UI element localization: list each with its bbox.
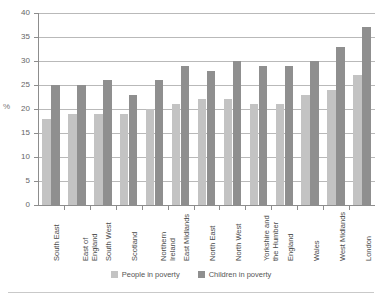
x-axis-tick bbox=[349, 206, 350, 210]
x-axis-category-label: East ofEngland bbox=[82, 233, 99, 261]
y-axis-tick-label: 15 bbox=[4, 129, 30, 137]
bar-1-3 bbox=[129, 95, 138, 205]
y-axis-tick-label: 20 bbox=[4, 105, 30, 113]
bar-0-5 bbox=[172, 104, 181, 205]
legend-swatch-icon bbox=[111, 271, 118, 278]
bar-1-7 bbox=[233, 61, 242, 205]
legend-label: Children in poverty bbox=[209, 270, 272, 279]
bar-0-8 bbox=[250, 104, 259, 205]
x-axis-category-label: South East bbox=[53, 224, 62, 261]
bar-0-4 bbox=[146, 109, 155, 205]
x-axis-category-label: Scotland bbox=[131, 232, 140, 261]
bar-1-4 bbox=[155, 80, 164, 205]
legend-item-1[interactable]: Children in poverty bbox=[198, 270, 272, 279]
x-axis-category-label: South West bbox=[105, 222, 114, 261]
x-axis-category-label: NorthernIreland bbox=[160, 232, 177, 261]
bar-0-12 bbox=[353, 75, 362, 205]
x-axis-category-label: East Midlands bbox=[183, 214, 192, 261]
y-axis-tick-label: 10 bbox=[4, 153, 30, 161]
x-axis-category-label: England bbox=[287, 233, 296, 261]
y-axis-tick-label: 0 bbox=[4, 201, 30, 209]
y-axis-tick bbox=[34, 13, 38, 14]
chart-legend: People in povertyChildren in poverty bbox=[0, 270, 382, 279]
x-axis-tick bbox=[323, 206, 324, 210]
y-axis-tick bbox=[34, 181, 38, 182]
y-axis-tick-label: 30 bbox=[4, 57, 30, 65]
legend-label: People in poverty bbox=[122, 270, 180, 279]
x-axis-category-label: North West bbox=[235, 224, 244, 261]
y-axis-tick bbox=[34, 133, 38, 134]
bar-1-8 bbox=[259, 66, 268, 205]
x-axis-tick bbox=[219, 206, 220, 210]
gridline bbox=[39, 61, 375, 62]
bar-1-6 bbox=[207, 71, 216, 205]
bar-1-0 bbox=[51, 85, 60, 205]
y-axis-tick bbox=[34, 109, 38, 110]
bar-1-10 bbox=[310, 61, 319, 205]
bar-1-12 bbox=[362, 27, 371, 205]
x-axis-tick bbox=[64, 206, 65, 210]
bar-1-1 bbox=[77, 85, 86, 205]
y-axis-tick-label: 40 bbox=[4, 9, 30, 17]
x-axis-tick bbox=[297, 206, 298, 210]
x-axis-tick bbox=[116, 206, 117, 210]
y-axis-tick bbox=[34, 85, 38, 86]
x-axis-tick bbox=[90, 206, 91, 210]
bar-0-11 bbox=[327, 90, 336, 205]
y-axis-tick bbox=[34, 157, 38, 158]
bar-0-9 bbox=[276, 104, 285, 205]
y-axis-tick-label: 5 bbox=[4, 177, 30, 185]
y-axis-tick-label: 25 bbox=[4, 81, 30, 89]
bar-0-3 bbox=[120, 114, 129, 205]
x-axis-category-label: West Midlands bbox=[339, 212, 348, 261]
bar-1-9 bbox=[285, 66, 294, 205]
bar-0-7 bbox=[224, 99, 233, 205]
poverty-bar-chart: % 0510152025303540 People in povertyChil… bbox=[0, 0, 382, 300]
bar-0-2 bbox=[94, 114, 103, 205]
y-axis-tick bbox=[34, 61, 38, 62]
x-axis-category-label: Yorkshire andthe Humber bbox=[263, 215, 280, 261]
bar-1-2 bbox=[103, 80, 112, 205]
y-axis-tick bbox=[34, 37, 38, 38]
x-axis-category-label: London bbox=[365, 236, 374, 261]
x-axis-tick bbox=[271, 206, 272, 210]
x-axis-category-label: North East bbox=[209, 226, 218, 261]
gridline bbox=[39, 13, 375, 14]
bottom-divider bbox=[8, 292, 374, 293]
y-axis-tick bbox=[34, 205, 38, 206]
bar-0-0 bbox=[42, 119, 51, 205]
bar-0-10 bbox=[301, 95, 310, 205]
x-axis-tick bbox=[142, 206, 143, 210]
bar-0-1 bbox=[68, 114, 77, 205]
bar-1-5 bbox=[181, 66, 190, 205]
x-axis-category-label: Wales bbox=[313, 240, 322, 261]
bar-1-11 bbox=[336, 47, 345, 205]
x-axis-tick bbox=[194, 206, 195, 210]
y-axis-tick-label: 35 bbox=[4, 33, 30, 41]
x-axis-tick bbox=[245, 206, 246, 210]
gridline bbox=[39, 37, 375, 38]
legend-item-0[interactable]: People in poverty bbox=[111, 270, 180, 279]
plot-area: 0510152025303540 bbox=[38, 13, 375, 205]
x-axis-tick bbox=[168, 206, 169, 210]
legend-swatch-icon bbox=[198, 271, 205, 278]
bar-0-6 bbox=[198, 99, 207, 205]
x-axis-line bbox=[38, 205, 375, 206]
